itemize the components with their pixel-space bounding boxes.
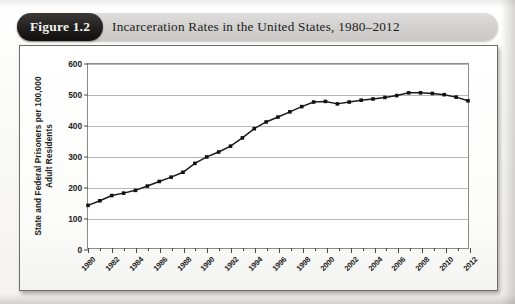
data-marker-2010: [442, 93, 446, 97]
x-tick-mark-minor-1989: [195, 248, 196, 251]
x-tick-mark-1982: [112, 248, 113, 253]
x-tick-mark-1986: [160, 248, 161, 253]
x-tick-mark-1984: [136, 248, 137, 253]
x-tick-mark-minor-1999: [315, 248, 316, 251]
x-tick-mark-minor-1997: [291, 248, 292, 251]
x-tick-mark-2010: [446, 248, 447, 253]
x-tick-mark-minor-2005: [386, 248, 387, 251]
x-tick-mark-2012: [470, 248, 471, 253]
y-tick-label-400: 400: [68, 121, 82, 131]
figure-caption: Incarceration Rates in the United States…: [112, 13, 400, 41]
y-tick-label-200: 200: [68, 183, 82, 193]
x-tick-mark-2008: [422, 248, 423, 253]
data-marker-1984: [134, 189, 138, 193]
data-marker-2001: [336, 102, 340, 106]
y-tick-label-100: 100: [68, 214, 82, 224]
y-axis-title-text: State and Federal Prisoners per 100,000 …: [34, 76, 56, 235]
data-marker-2000: [324, 100, 328, 104]
x-tick-mark-2000: [327, 248, 328, 253]
chart-card: State and Federal Prisoners per 100,000 …: [19, 45, 498, 291]
data-marker-1992: [229, 144, 233, 148]
x-tick-mark-1996: [279, 248, 280, 253]
y-tick-label-500: 500: [68, 90, 82, 100]
x-tick-mark-2004: [375, 248, 376, 253]
x-tick-mark-minor-2007: [410, 248, 411, 251]
x-tick-mark-minor-1985: [148, 248, 149, 251]
data-marker-1995: [264, 120, 268, 124]
series-line: [88, 93, 468, 206]
data-marker-1987: [169, 175, 173, 179]
data-marker-1990: [205, 155, 209, 159]
x-tick-mark-minor-2003: [363, 248, 364, 251]
x-tick-label-1992: 1992: [223, 255, 241, 273]
y-tick-label-0: 0: [77, 245, 82, 255]
x-tick-mark-minor-1991: [219, 248, 220, 251]
y-axis-title-line-2: Adult Residents: [45, 124, 54, 188]
x-tick-mark-2006: [398, 248, 399, 253]
y-tick-label-300: 300: [68, 152, 82, 162]
data-marker-1981: [98, 199, 102, 203]
x-tick-label-1982: 1982: [103, 255, 121, 273]
plot-area: 0100200300400500600 19801982198419861988…: [87, 63, 469, 249]
x-tick-mark-1980: [88, 248, 89, 253]
incarceration-rate-line-series: [88, 64, 468, 248]
x-tick-mark-minor-1987: [172, 248, 173, 251]
data-marker-1986: [157, 180, 161, 184]
data-marker-1980: [86, 204, 90, 208]
x-tick-label-1990: 1990: [199, 255, 217, 273]
data-marker-2004: [371, 97, 375, 101]
x-tick-label-2004: 2004: [366, 255, 384, 273]
x-tick-label-2010: 2010: [438, 255, 456, 273]
x-tick-label-2008: 2008: [414, 255, 432, 273]
x-tick-mark-1994: [255, 248, 256, 253]
data-marker-1999: [312, 100, 316, 104]
x-tick-label-1984: 1984: [127, 255, 145, 273]
data-marker-2005: [383, 96, 387, 100]
data-marker-1985: [146, 184, 150, 188]
data-marker-2012: [466, 99, 470, 103]
x-tick-mark-minor-1993: [243, 248, 244, 251]
data-marker-2009: [431, 92, 435, 96]
x-tick-label-2012: 2012: [461, 255, 479, 273]
x-tick-label-2000: 2000: [318, 255, 336, 273]
x-tick-mark-1990: [207, 248, 208, 253]
data-marker-2011: [454, 95, 458, 99]
data-marker-1997: [288, 110, 292, 114]
x-tick-mark-minor-1981: [100, 248, 101, 251]
figure-number-badge: Figure 1.2: [17, 13, 103, 41]
data-marker-1996: [276, 115, 280, 119]
data-marker-1982: [110, 194, 114, 198]
x-tick-label-1996: 1996: [270, 255, 288, 273]
data-marker-1993: [241, 136, 245, 140]
data-marker-1989: [193, 162, 197, 166]
x-tick-mark-minor-2001: [339, 248, 340, 251]
x-tick-label-1980: 1980: [79, 255, 97, 273]
data-marker-2003: [359, 98, 363, 102]
data-marker-2008: [419, 91, 423, 95]
data-marker-1991: [217, 150, 221, 154]
x-tick-mark-2002: [351, 248, 352, 253]
data-marker-1994: [252, 127, 256, 131]
x-tick-mark-1992: [231, 248, 232, 253]
x-tick-mark-minor-2009: [434, 248, 435, 251]
data-marker-1983: [122, 191, 126, 195]
x-tick-mark-1988: [184, 248, 185, 253]
y-axis-title: State and Federal Prisoners per 100,000 …: [32, 63, 58, 249]
x-tick-mark-minor-2011: [458, 248, 459, 251]
data-marker-2007: [407, 91, 411, 95]
x-tick-label-1988: 1988: [175, 255, 193, 273]
y-axis-title-line-1: State and Federal Prisoners per 100,000: [34, 76, 43, 235]
data-marker-1988: [181, 170, 185, 174]
figure-page: Figure 1.2 Incarceration Rates in the Un…: [0, 0, 515, 304]
x-tick-label-2006: 2006: [390, 255, 408, 273]
y-tick-label-600: 600: [68, 59, 82, 69]
x-tick-mark-1998: [303, 248, 304, 253]
x-tick-label-1986: 1986: [151, 255, 169, 273]
x-tick-label-1994: 1994: [247, 255, 265, 273]
x-tick-label-2002: 2002: [342, 255, 360, 273]
x-tick-label-1998: 1998: [294, 255, 312, 273]
data-marker-1998: [300, 105, 304, 109]
x-tick-mark-minor-1995: [267, 248, 268, 251]
data-marker-2002: [347, 100, 351, 104]
x-tick-mark-minor-1983: [124, 248, 125, 251]
